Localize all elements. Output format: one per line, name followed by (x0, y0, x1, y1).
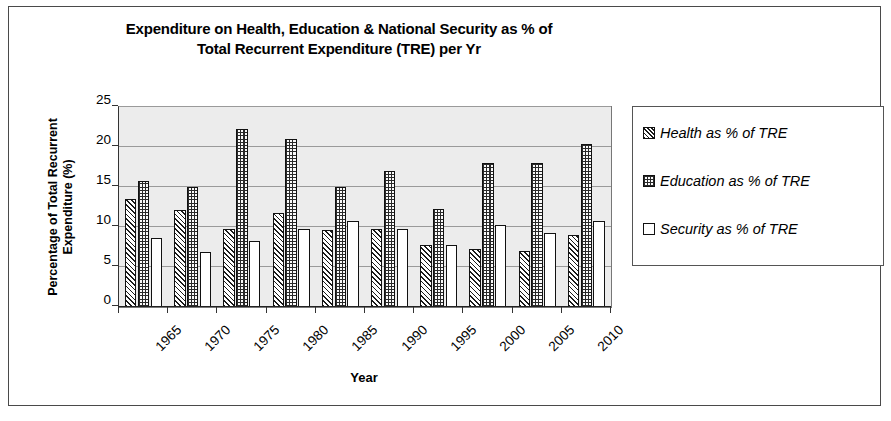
y-axis-tick-label: 5 (77, 253, 111, 266)
legend-item-health[interactable]: Health as % of TRE (643, 123, 787, 143)
bar-group (365, 107, 414, 307)
bar-education-2010 (581, 144, 592, 307)
bar-group (316, 107, 365, 307)
x-axis-tick-mark (561, 307, 562, 313)
bar-groups (119, 107, 611, 307)
bar-security-1975 (249, 241, 260, 307)
bar-education-1975 (236, 129, 247, 307)
x-axis-tick-mark (315, 307, 316, 313)
bar-health-1990 (371, 229, 382, 307)
bar-group (414, 107, 463, 307)
bar-education-1995 (433, 209, 444, 307)
chart-legend: Health as % of TREEducation as % of TRES… (632, 106, 884, 266)
x-axis-tick-mark (118, 307, 119, 313)
chart-title-line-2: Total Recurrent Expenditure (TRE) per Yr (39, 39, 639, 59)
bar-health-1965 (125, 199, 136, 307)
x-axis-tick-label: 2010 (595, 322, 627, 354)
chart-frame: Expenditure on Health, Education & Natio… (8, 6, 881, 406)
legend-item-label: Education as % of TRE (660, 173, 810, 189)
x-axis-tick-mark (462, 307, 463, 313)
x-axis-tick-mark (610, 307, 611, 313)
x-axis-tick-label: 1970 (201, 322, 233, 354)
legend-swatch-icon (643, 127, 655, 139)
x-axis-tick-labels: 1965197019751980198519901995200020052010 (118, 314, 610, 364)
bar-security-1980 (298, 229, 309, 307)
x-axis-tick-label: 1985 (349, 322, 381, 354)
bar-group (513, 107, 562, 307)
bar-security-1985 (347, 221, 358, 307)
x-axis-tick-mark (512, 307, 513, 313)
x-axis-tick-label: 1980 (300, 322, 332, 354)
y-axis-tick-label: 10 (77, 213, 111, 226)
chart-title-line-1: Expenditure on Health, Education & Natio… (39, 19, 639, 39)
bar-education-1990 (384, 171, 395, 307)
bar-group (463, 107, 512, 307)
x-axis-tick-mark (167, 307, 168, 313)
plot-area (118, 106, 612, 308)
bar-education-1970 (187, 187, 198, 307)
bar-health-1985 (322, 230, 333, 307)
bar-health-2005 (519, 251, 530, 307)
x-axis-tick-mark (413, 307, 414, 313)
bar-security-1995 (446, 245, 457, 307)
bar-health-1980 (273, 213, 284, 307)
bar-group (168, 107, 217, 307)
legend-swatch-icon (643, 223, 655, 235)
bar-security-1990 (397, 229, 408, 307)
bar-education-2000 (482, 163, 493, 307)
x-axis-tick-label: 1995 (447, 322, 479, 354)
y-axis-tick-labels: 0510152025 (71, 106, 111, 306)
bar-security-1965 (151, 238, 162, 307)
bar-health-2010 (568, 235, 579, 307)
chart-title: Expenditure on Health, Education & Natio… (39, 19, 639, 59)
legend-item-education[interactable]: Education as % of TRE (643, 171, 810, 191)
bar-education-1985 (335, 187, 346, 307)
bar-group (562, 107, 611, 307)
bar-education-2005 (531, 163, 542, 307)
bar-education-1965 (138, 181, 149, 307)
bar-health-1975 (223, 229, 234, 307)
legend-item-security[interactable]: Security as % of TRE (643, 219, 798, 239)
x-axis-title: Year (118, 370, 610, 385)
bar-security-2010 (593, 221, 604, 307)
y-axis-title-line-1: Percentage of Total Recurrent (46, 92, 61, 322)
x-axis-tick-marks (118, 307, 610, 314)
x-axis-tick-mark (266, 307, 267, 313)
bar-education-1980 (285, 139, 296, 307)
legend-item-label: Health as % of TRE (660, 125, 787, 141)
bar-security-2000 (495, 225, 506, 307)
x-axis-tick-label: 2005 (546, 322, 578, 354)
y-axis-tick-label: 20 (77, 133, 111, 146)
x-axis-tick-label: 1965 (152, 322, 184, 354)
x-axis-tick-label: 2000 (496, 322, 528, 354)
bar-health-2000 (469, 249, 480, 307)
x-axis-tick-label: 1975 (250, 322, 282, 354)
legend-item-label: Security as % of TRE (660, 221, 798, 237)
bar-group (217, 107, 266, 307)
legend-swatch-icon (643, 175, 655, 187)
x-axis-tick-mark (364, 307, 365, 313)
x-axis-tick-mark (216, 307, 217, 313)
y-axis-tick-label: 25 (77, 93, 111, 106)
y-axis-tick-label: 0 (77, 293, 111, 306)
bar-security-1970 (200, 252, 211, 307)
bar-health-1995 (420, 245, 431, 307)
bar-group (267, 107, 316, 307)
bar-security-2005 (544, 233, 555, 307)
bar-health-1970 (174, 210, 185, 307)
y-axis-tick-label: 15 (77, 173, 111, 186)
bar-group (119, 107, 168, 307)
x-axis-tick-label: 1990 (398, 322, 430, 354)
